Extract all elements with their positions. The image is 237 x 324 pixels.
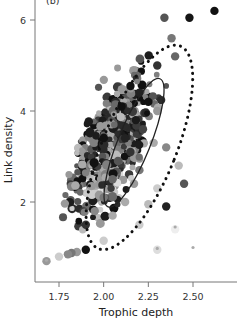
data-point (210, 7, 218, 15)
y-axis-label: Link density (2, 116, 15, 183)
data-point (167, 34, 175, 42)
data-point (64, 250, 72, 258)
data-point (82, 246, 90, 254)
y-tick-label: 6 (20, 15, 26, 26)
data-point (99, 236, 107, 244)
x-ticks: 1.752.002.252.50 (48, 282, 203, 302)
data-point (107, 185, 114, 192)
data-point (61, 199, 69, 207)
plot-area: 1.752.002.252.50 246 (b) Trophic depth L… (0, 0, 237, 324)
data-point (91, 207, 99, 215)
x-tick-label: 2.50 (182, 291, 203, 302)
data-point (108, 175, 116, 183)
data-point (100, 76, 108, 84)
data-point (145, 51, 153, 59)
data-point (175, 161, 183, 169)
data-point (96, 110, 101, 115)
data-point (74, 198, 81, 205)
data-point (144, 110, 149, 115)
data-point (62, 192, 68, 198)
data-point (74, 169, 80, 175)
data-point (82, 169, 89, 176)
y-tick-label: 2 (20, 197, 26, 208)
data-point (154, 72, 160, 78)
data-point (136, 153, 143, 160)
data-point (136, 55, 145, 64)
data-point (103, 100, 110, 107)
data-point (134, 79, 140, 85)
data-point (139, 125, 147, 133)
data-point (126, 148, 134, 156)
x-tick-label: 2.00 (93, 291, 114, 302)
data-point (117, 113, 125, 121)
data-point (69, 206, 74, 211)
y-ticks: 246 (20, 15, 35, 208)
data-point (95, 84, 102, 91)
x-tick-label: 1.75 (48, 291, 69, 302)
data-point (45, 259, 48, 262)
x-tick-label: 2.25 (138, 291, 159, 302)
data-point (96, 122, 104, 130)
data-point (108, 211, 116, 219)
data-point (121, 134, 129, 142)
data-point (156, 247, 159, 250)
data-point (114, 157, 122, 165)
scatter-chart: 1.752.002.252.50 246 (b) Trophic depth L… (0, 0, 237, 324)
data-point (121, 198, 129, 206)
data-point (144, 98, 152, 106)
data-point (162, 143, 170, 151)
data-point (130, 164, 136, 170)
data-point (55, 252, 63, 260)
data-point (180, 180, 188, 188)
data-point (71, 181, 80, 190)
data-point (135, 141, 143, 149)
data-point (132, 116, 140, 124)
data-point (162, 202, 170, 210)
data-point (160, 14, 168, 22)
data-point (77, 189, 84, 196)
panel-label: (b) (46, 0, 59, 6)
data-point (79, 147, 84, 152)
data-point (84, 117, 93, 126)
x-axis-label: Trophic depth (98, 306, 174, 319)
data-point (85, 128, 95, 138)
data-point (65, 171, 72, 178)
y-tick-label: 4 (20, 106, 26, 117)
data-point (111, 122, 118, 129)
data-point (171, 52, 179, 60)
data-point (75, 218, 82, 225)
data-point (78, 160, 86, 168)
data-point (191, 246, 194, 249)
data-points (42, 7, 218, 266)
data-point (59, 213, 67, 221)
data-point (185, 14, 193, 22)
data-point (101, 212, 110, 221)
data-point (133, 131, 139, 137)
data-point (153, 61, 161, 69)
data-point (114, 91, 120, 97)
data-point (174, 225, 177, 228)
data-point (114, 64, 121, 71)
